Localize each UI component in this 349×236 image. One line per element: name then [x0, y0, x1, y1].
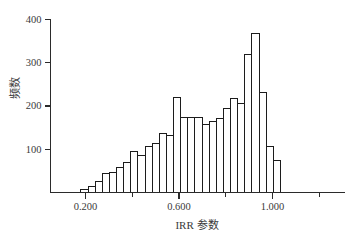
- histogram-bar: [166, 136, 173, 193]
- histogram-bar: [223, 108, 230, 192]
- histogram-bar: [174, 97, 181, 192]
- y-axis-title: 频数: [6, 77, 22, 99]
- histogram-bar: [152, 144, 159, 193]
- histogram-bar: [259, 93, 266, 193]
- histogram-bar: [117, 167, 124, 192]
- histogram-bar: [209, 121, 216, 192]
- histogram-bar: [245, 55, 252, 193]
- histogram-bar: [159, 133, 166, 192]
- x-tick-label: 1.000: [261, 201, 285, 212]
- histogram-bar: [95, 182, 102, 193]
- y-tick-label: 100: [26, 144, 42, 155]
- histogram-bar: [181, 117, 188, 192]
- y-tick-label: 200: [26, 100, 42, 111]
- histogram-bar: [124, 162, 131, 192]
- histogram-bar: [231, 98, 238, 192]
- histogram-plot: 1002003004000.2000.6001.000: [0, 0, 349, 236]
- x-tick-label: 0.600: [167, 201, 191, 212]
- histogram-bar: [238, 104, 245, 193]
- histogram-bar: [266, 147, 273, 193]
- x-axis-title: IRR 参数: [175, 216, 218, 232]
- histogram-bar: [273, 160, 280, 192]
- histogram-bar: [138, 155, 145, 192]
- histogram-bar: [88, 186, 95, 192]
- histogram-bar: [252, 34, 259, 193]
- histogram-bar: [131, 151, 138, 192]
- histogram-figure: 1002003004000.2000.6001.000 频数 IRR 参数: [0, 0, 349, 236]
- x-tick-label: 0.200: [74, 201, 98, 212]
- histogram-bar: [195, 118, 202, 193]
- y-tick-label: 400: [26, 14, 42, 25]
- histogram-bar: [216, 118, 223, 192]
- histogram-bar: [102, 174, 109, 193]
- histogram-bar: [202, 125, 209, 193]
- histogram-bar: [109, 172, 116, 192]
- histogram-bar: [145, 146, 152, 192]
- y-tick-label: 300: [26, 57, 42, 68]
- histogram-bar: [188, 117, 195, 192]
